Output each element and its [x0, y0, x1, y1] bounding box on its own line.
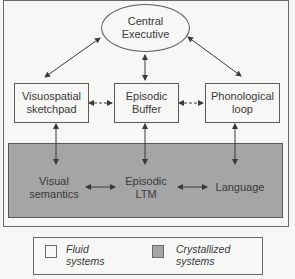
- central-executive-node: Central Executive: [101, 4, 190, 52]
- visuospatial-line1: Visuospatial: [22, 90, 81, 103]
- phonological-loop-node: Phonological loop: [205, 83, 280, 123]
- fluid-legend-line1: Fluid: [66, 243, 105, 255]
- episodic-buffer-line2: Buffer: [126, 103, 168, 116]
- arrow-ce-phonological: [188, 37, 241, 76]
- phonological-line1: Phonological: [211, 90, 274, 103]
- fluid-swatch: [45, 245, 57, 258]
- episodic-ltm-line1: Episodic: [115, 175, 177, 188]
- language-line1: Language: [210, 181, 270, 194]
- central-executive-line2: Executive: [122, 28, 170, 41]
- episodic-ltm-node: Episodic LTM: [115, 175, 177, 201]
- episodic-buffer-line1: Episodic: [126, 90, 168, 103]
- fluid-legend-label: Fluid systems: [66, 243, 105, 267]
- visual-semantics-node: Visual semantics: [18, 175, 90, 201]
- episodic-buffer-node: Episodic Buffer: [114, 83, 179, 123]
- language-node: Language: [210, 181, 270, 194]
- central-executive-line1: Central: [122, 15, 170, 28]
- crystallized-legend-label: Crystallized systems: [176, 243, 230, 267]
- episodic-ltm-line2: LTM: [115, 188, 177, 201]
- legend: Fluid systems Crystallized systems: [33, 237, 263, 275]
- crystallized-legend-line1: Crystallized: [176, 243, 230, 255]
- crystallized-legend-line2: systems: [176, 255, 230, 267]
- visuospatial-sketchpad-node: Visuospatial sketchpad: [14, 83, 89, 123]
- fluid-legend-line2: systems: [66, 255, 105, 267]
- arrow-ce-visuospatial: [45, 38, 100, 77]
- crystallized-swatch: [152, 245, 164, 258]
- visual-semantics-line1: Visual: [18, 175, 90, 188]
- phonological-line2: loop: [211, 103, 274, 116]
- visuospatial-line2: sketchpad: [22, 103, 81, 116]
- visual-semantics-line2: semantics: [18, 188, 90, 201]
